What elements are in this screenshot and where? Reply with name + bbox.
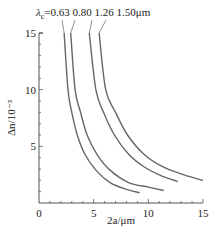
legend: λc=0.63 0.80 1.26 1.50μm: [35, 6, 151, 21]
leader-line: [71, 20, 75, 33]
axes: 05101551015: [25, 27, 209, 219]
curves: [64, 33, 203, 193]
leader-line: [89, 20, 92, 33]
y-tick-label: 5: [31, 140, 37, 152]
y-axis-label: Δn/10⁻³: [5, 99, 17, 136]
y-tick-label: 15: [25, 27, 37, 39]
x-tick-label: 15: [198, 207, 210, 219]
chart: 05101551015 λc=0.63 0.80 1.26 1.50μm 2a/…: [0, 0, 215, 234]
legend-leader-lines: [62, 20, 106, 33]
curve-3: [99, 33, 203, 180]
leader-line: [99, 20, 106, 33]
curve-1: [71, 33, 164, 191]
x-axis-label: 2a/μm: [107, 214, 135, 226]
x-tick-label: 0: [36, 207, 42, 219]
leader-line: [62, 20, 64, 33]
curve-2: [89, 33, 178, 181]
x-tick-label: 10: [143, 207, 155, 219]
y-tick-label: 10: [25, 84, 37, 96]
x-tick-label: 5: [91, 207, 97, 219]
